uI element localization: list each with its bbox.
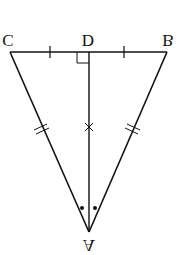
label-b: B: [162, 31, 173, 50]
angle-dot-right: [93, 206, 97, 210]
double-tick-ac-1: [34, 124, 47, 130]
segment-ac: [10, 52, 89, 232]
label-a: A: [83, 236, 96, 255]
triangle-diagram: C D B A: [0, 0, 182, 255]
double-tick-ac-2: [36, 128, 49, 134]
label-c: C: [2, 31, 13, 50]
angle-dot-left: [80, 206, 84, 210]
segment-ab: [89, 52, 167, 232]
right-angle-mark: [77, 52, 89, 63]
label-d: D: [82, 31, 94, 50]
